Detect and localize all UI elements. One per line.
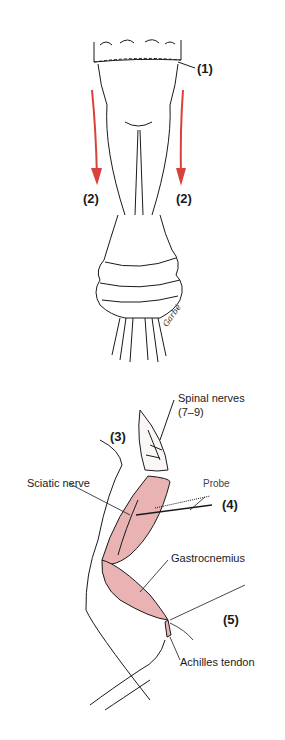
step-3-label: (3) — [110, 430, 126, 443]
step-2-left-label: (2) — [83, 192, 99, 205]
probe-label: Probe — [203, 479, 230, 489]
step-5-label: (5) — [223, 613, 239, 626]
gastrocnemius-label: Gastrocnemius — [171, 553, 245, 564]
step-4-label: (4) — [222, 498, 238, 511]
pull-direction-arrows — [92, 90, 185, 182]
spinal-nerves-label: Spinal nerves — [178, 393, 245, 404]
step-1-label: (1) — [197, 62, 213, 75]
step-2-right-label: (2) — [176, 192, 192, 205]
sciatic-nerve-label: Sciatic nerve — [27, 478, 90, 489]
achilles-tendon-label: Achilles tendon — [180, 657, 255, 668]
spinal-nerves-range-label: (7–9) — [178, 407, 204, 418]
diagram-canvas — [0, 0, 285, 740]
